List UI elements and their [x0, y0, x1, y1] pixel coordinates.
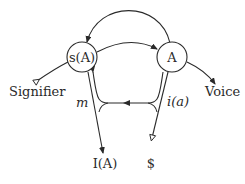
- ego-ideal-label: I(A): [93, 156, 118, 171]
- image-line-outer: [152, 72, 168, 138]
- voice-vector: [187, 62, 215, 84]
- node-signified-of-other-label: s(A): [69, 50, 95, 65]
- connector-arrowhead: [123, 100, 130, 106]
- ego-line-inner-lower: [99, 103, 108, 112]
- graph-of-desire: s(A) A Signifier Voice m i(a) I(A) $: [0, 0, 245, 184]
- signifier-label: Signifier: [9, 84, 66, 99]
- arc-other-to-signified: [87, 11, 170, 43]
- ego-label: m: [76, 95, 88, 110]
- node-other-label: A: [166, 50, 177, 65]
- ego-line-outer: [88, 72, 103, 153]
- signifier-vector: [37, 62, 68, 81]
- ego-image-label: i(a): [167, 94, 189, 109]
- barred-subject-label: $: [147, 156, 155, 171]
- ego-line-inner: [93, 72, 108, 103]
- image-line-inner-lower: [148, 103, 157, 112]
- image-line-inner: [148, 72, 163, 103]
- arrow-signified-to-other: [97, 43, 157, 52]
- voice-label: Voice: [204, 84, 240, 99]
